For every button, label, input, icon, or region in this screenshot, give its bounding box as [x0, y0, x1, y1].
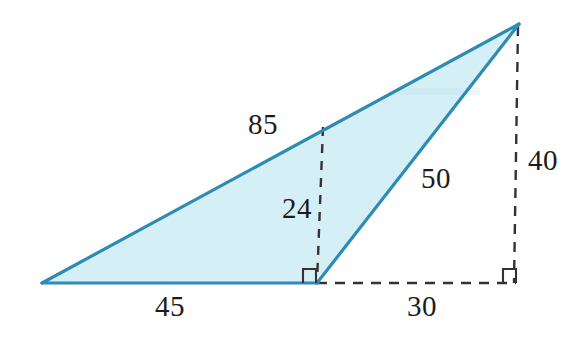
label-hypotenuse-right: 50	[421, 164, 451, 193]
label-height-middle: 24	[282, 194, 312, 223]
label-base-left: 45	[155, 292, 185, 321]
diagram-canvas	[0, 0, 587, 342]
label-height-right: 40	[528, 146, 558, 175]
label-hypotenuse-left: 85	[248, 110, 278, 139]
label-base-right: 30	[407, 292, 437, 321]
geometry-figure: 85 24 50 40 45 30	[0, 0, 587, 342]
dashed-height-right-segment	[514, 26, 518, 283]
